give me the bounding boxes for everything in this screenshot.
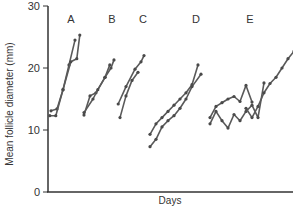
data-point <box>232 113 235 116</box>
data-point <box>49 109 52 112</box>
data-point <box>220 101 223 104</box>
group-a <box>48 34 81 118</box>
ytick-label-10: 10 <box>28 124 40 136</box>
series-line <box>50 35 80 116</box>
data-point <box>250 101 253 104</box>
ytick-label-0: 0 <box>34 186 40 198</box>
data-point <box>124 85 127 88</box>
group-label-e: E <box>246 13 253 25</box>
follicle-diameter-chart: 30 20 10 0 Mean follicle diameter (mm) D… <box>0 0 293 208</box>
data-point <box>166 119 169 122</box>
data-point <box>54 114 57 117</box>
group-e <box>208 48 293 130</box>
data-point <box>280 66 283 69</box>
data-point <box>48 114 51 117</box>
ytick-label-20: 20 <box>28 62 40 74</box>
data-point <box>154 122 157 125</box>
data-point <box>154 138 157 141</box>
data-point <box>268 82 271 85</box>
data-point <box>69 60 72 63</box>
data-point <box>130 79 133 82</box>
data-point <box>88 94 91 97</box>
data-point <box>112 58 115 61</box>
data-point <box>274 76 277 79</box>
data-point <box>124 94 127 97</box>
data-point <box>214 105 217 108</box>
series-line <box>150 74 201 147</box>
group-d <box>148 63 202 148</box>
y-axis-label: Mean follicle diameter (mm) <box>4 42 15 165</box>
data-point <box>172 114 175 117</box>
data-point <box>75 57 78 60</box>
data-point <box>199 73 202 76</box>
data-point <box>184 91 187 94</box>
series-line <box>51 40 75 111</box>
data-point <box>238 100 241 103</box>
data-point <box>139 60 142 63</box>
group-label-b: B <box>108 13 115 25</box>
data-point <box>250 116 253 119</box>
data-point <box>103 76 106 79</box>
data-point <box>262 81 265 84</box>
data-point <box>226 97 229 100</box>
data-point <box>286 57 289 60</box>
group-label-a: A <box>67 13 75 25</box>
data-point <box>208 116 211 119</box>
data-point <box>142 54 145 57</box>
data-point <box>214 110 217 113</box>
data-point <box>78 34 81 37</box>
data-point <box>96 88 99 91</box>
data-point <box>117 102 120 105</box>
data-point <box>178 107 181 110</box>
data-point <box>178 97 181 100</box>
data-point <box>148 133 151 136</box>
data-point <box>172 104 175 107</box>
data-point <box>184 97 187 100</box>
data-point <box>226 127 229 130</box>
data-point <box>108 63 111 66</box>
x-axis-label: Days <box>159 195 182 206</box>
data-point <box>118 116 121 119</box>
ytick-label-30: 30 <box>28 0 40 12</box>
data-point <box>133 68 136 71</box>
data-point <box>250 104 253 107</box>
data-point <box>256 105 259 108</box>
data-point <box>82 111 85 114</box>
data-point <box>238 119 241 122</box>
data-point <box>166 110 169 113</box>
data-point <box>73 39 76 42</box>
data-point <box>148 145 151 148</box>
data-point <box>244 107 247 110</box>
data-point <box>262 91 265 94</box>
data-point <box>220 119 223 122</box>
data-point <box>91 97 94 100</box>
data-point <box>244 84 247 87</box>
data-point <box>196 63 199 66</box>
data-point <box>190 85 193 88</box>
data-point <box>61 88 64 91</box>
data-point <box>136 71 139 74</box>
data-point <box>208 122 211 125</box>
data-point <box>256 116 259 119</box>
data-point <box>160 116 163 119</box>
group-c <box>117 54 146 119</box>
data-point <box>232 95 235 98</box>
data-point <box>160 125 163 128</box>
group-b <box>82 58 115 116</box>
group-label-c: C <box>139 13 147 25</box>
group-label-d: D <box>192 13 200 25</box>
plot-series <box>48 34 293 149</box>
